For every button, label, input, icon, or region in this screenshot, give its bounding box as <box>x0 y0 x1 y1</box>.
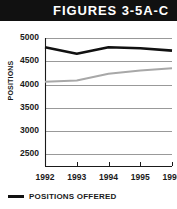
legend-line-swatch <box>8 195 24 198</box>
legend-label: POSITIONS OFFERED <box>29 192 116 201</box>
title-banner: FIGURES 3-5A-C <box>0 0 177 21</box>
series-line-0 <box>45 47 172 54</box>
series-line-1 <box>45 68 172 82</box>
chart-legend: POSITIONS OFFERED <box>8 192 116 201</box>
chart-plot <box>0 21 177 176</box>
chart: POSITIONS 500045004000350030002500 19921… <box>0 21 177 176</box>
gridlines <box>45 39 172 155</box>
figure-panel: FIGURES 3-5A-C POSITIONS 500045004000350… <box>0 0 177 209</box>
series-lines <box>45 47 172 82</box>
axis-spines <box>45 38 173 167</box>
page-title: FIGURES 3-5A-C <box>53 3 169 18</box>
